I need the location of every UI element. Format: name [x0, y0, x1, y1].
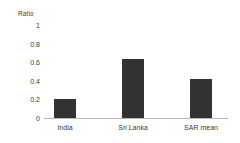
y-tick-label-0-4: 0.4 — [14, 77, 40, 84]
bar-chart: Ratio 1 0.8 0.6 0.4 0.2 0 India Sri Lank… — [0, 0, 240, 143]
bar-sri-lanka — [122, 59, 144, 118]
y-tick-label-0-8: 0.8 — [14, 40, 40, 47]
bar-series — [44, 0, 228, 143]
plot-area: 1 0.8 0.6 0.4 0.2 0 India Sri Lanka SAR … — [0, 0, 240, 143]
bar-sar-mean — [190, 79, 212, 118]
y-tick-label-1: 1 — [14, 22, 40, 29]
y-tick-label-0-2: 0.2 — [14, 96, 40, 103]
bar-india — [54, 99, 76, 118]
x-axis-label-india: India — [57, 124, 72, 131]
x-axis-label-sar-mean: SAR mean — [184, 124, 218, 131]
y-tick-label-0: 0 — [14, 115, 40, 122]
y-tick-label-0-6: 0.6 — [14, 59, 40, 66]
x-axis-label-sri-lanka: Sri Lanka — [118, 124, 148, 131]
